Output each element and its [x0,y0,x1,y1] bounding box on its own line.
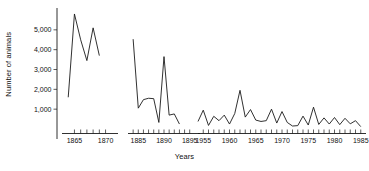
y-tick-label: 5,000 [34,26,52,33]
x-tick-label: 1980 [327,137,343,144]
x-tick-label: 1870 [98,137,114,144]
panel-1955-1985: 1955196019651970197519801985 [195,90,368,144]
panel-1880s-90s: 188518901895 [128,39,200,144]
x-tick-label: 1970 [274,137,290,144]
plot-area: 1,0002,0003,0004,0005,000 18651870188518… [0,0,369,171]
panel-1860s: 18651870 [62,14,118,144]
x-tick-label: 1955 [195,137,211,144]
y-tick-label: 1,000 [34,106,52,113]
chart-container: Number of animals Years 1,0002,0003,0004… [0,0,369,171]
x-tick-label: 1985 [353,137,369,144]
y-axis: 1,0002,0003,0004,0005,000 [34,8,57,139]
x-tick-label: 1975 [300,137,316,144]
data-series-line [198,90,361,126]
x-tick-label: 1885 [130,137,146,144]
data-series-line [133,39,179,124]
y-tick-label: 3,000 [34,66,52,73]
x-tick-label: 1960 [222,137,238,144]
panels: 1865187018851890189519551960196519701975… [62,14,369,144]
data-series-line [68,14,99,97]
y-tick-label: 4,000 [34,46,52,53]
x-tick-label: 1865 [67,137,83,144]
y-tick-label: 2,000 [34,86,52,93]
x-tick-label: 1965 [248,137,264,144]
x-tick-label: 1890 [156,137,172,144]
